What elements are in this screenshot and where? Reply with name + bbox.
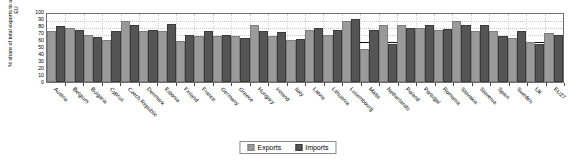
bar-exports (194, 36, 203, 82)
bar-imports (535, 44, 544, 82)
bar-exports (508, 38, 517, 82)
y-tick-80: 80 (38, 24, 44, 29)
bar-exports (139, 31, 148, 82)
bar-imports (56, 26, 65, 82)
bar-group (158, 14, 176, 82)
x-tick-label: France (201, 86, 218, 103)
x-tick-label: Slovenia (479, 86, 498, 105)
y-tick-90: 90 (38, 17, 44, 22)
x-tick-mark (564, 83, 565, 86)
y-axis-tick-labels: 0102030405060708090100 (22, 12, 44, 84)
x-tick-label: Romania (442, 86, 462, 106)
bar-imports (204, 31, 213, 82)
bar-imports (75, 30, 84, 82)
legend-swatch-imports (295, 144, 302, 151)
x-tick-label: Estonia (164, 86, 181, 103)
bar-group (471, 14, 489, 82)
bar-group (305, 14, 323, 82)
bar-imports (351, 19, 360, 82)
bar-exports (268, 36, 277, 82)
bar-group (139, 14, 157, 82)
bar-exports (434, 30, 443, 82)
bar-imports (314, 28, 323, 83)
plot-area (46, 13, 564, 83)
bar-group (379, 14, 397, 82)
bar-group (415, 14, 433, 82)
legend-label-exports: Exports (257, 144, 281, 151)
x-tick-label: Poland (405, 86, 422, 103)
bar-exports (379, 25, 388, 82)
bar-exports (65, 28, 74, 83)
bar-imports (222, 35, 231, 83)
y-tick-10: 10 (38, 73, 44, 78)
bar-exports (102, 40, 111, 82)
bar-group (231, 14, 249, 82)
bar-imports (93, 37, 102, 82)
bar-imports (111, 31, 120, 82)
chart-legend: Exports Imports (239, 141, 336, 154)
legend-swatch-exports (247, 144, 254, 151)
bar-group (121, 14, 139, 82)
bar-group (194, 14, 212, 82)
x-tick-label: Austria (53, 86, 70, 103)
bar-exports (121, 21, 130, 82)
x-tick-label: Sweden (516, 86, 535, 105)
bar-imports (498, 36, 507, 82)
y-axis-title-text: % share of total exports to and imports … (7, 0, 20, 71)
x-axis-tick-labels: AustriaBelgiumBulgariaCyprusCzech Republ… (46, 86, 564, 132)
bar-exports (526, 42, 535, 82)
bar-imports (148, 30, 157, 82)
bar-group (250, 14, 268, 82)
bar-imports (517, 31, 526, 82)
bar-group (65, 14, 83, 82)
bar-group (342, 14, 360, 82)
bar-group (526, 14, 544, 82)
x-tick-label: Belgium (72, 86, 91, 105)
y-tick-20: 20 (38, 66, 44, 71)
bar-imports (130, 25, 139, 82)
bar-exports (397, 25, 406, 82)
bar-groups (47, 14, 563, 82)
bar-exports (323, 35, 332, 83)
x-tick-label: Cyprus (109, 86, 126, 103)
x-tick-label: Slovakia (460, 86, 479, 105)
bar-group (397, 14, 415, 82)
y-tick-70: 70 (38, 31, 44, 36)
bar-group (47, 14, 65, 82)
bar-group (452, 14, 470, 82)
bar-imports (240, 38, 249, 82)
bar-exports (452, 21, 461, 83)
x-tick-label: Ireland (275, 86, 291, 102)
bar-exports (415, 28, 424, 83)
x-tick-label: Bulgaria (90, 86, 109, 105)
y-tick-30: 30 (38, 59, 44, 64)
y-tick-40: 40 (38, 52, 44, 57)
bar-imports (480, 25, 489, 82)
bar-group (544, 14, 562, 82)
bar-exports (84, 35, 93, 83)
bar-imports (554, 35, 563, 82)
bar-imports (185, 35, 194, 83)
x-tick-label: EU27 (553, 86, 567, 100)
x-tick-label: Portugal (423, 86, 442, 105)
x-tick-label: Hungary (257, 86, 276, 105)
bar-group (508, 14, 526, 82)
bar-exports (231, 36, 240, 82)
bar-exports (286, 40, 295, 82)
bar-exports (47, 31, 56, 82)
bar-group (268, 14, 286, 82)
bar-exports (342, 21, 351, 83)
bar-imports (443, 29, 452, 82)
bar-imports (277, 32, 286, 82)
bar-group (360, 14, 378, 82)
bar-imports (167, 24, 176, 82)
bar-group (102, 14, 120, 82)
bar-imports (406, 28, 415, 82)
y-tick-100: 100 (35, 10, 44, 15)
y-tick-50: 50 (38, 45, 44, 50)
bar-exports (544, 33, 553, 82)
bar-imports (461, 25, 470, 82)
bar-exports (360, 49, 369, 83)
bar-exports (489, 31, 498, 82)
x-tick-label: Finland (183, 86, 200, 103)
